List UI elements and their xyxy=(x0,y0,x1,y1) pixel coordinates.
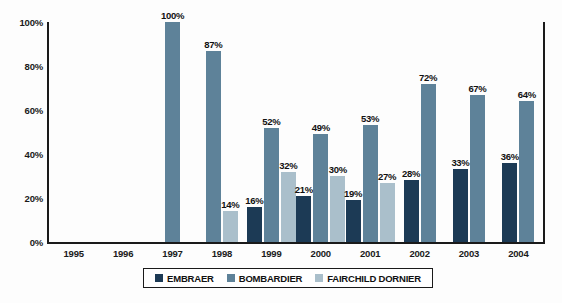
legend-label: BOMBARDIER xyxy=(239,273,302,284)
x-axis-labels: 1995199619971998199920002001200220032004 xyxy=(49,248,543,259)
bar-value-label: 49% xyxy=(312,122,330,133)
bar-value-label: 100% xyxy=(161,10,184,21)
bar-embraer-2003[interactable]: 33% xyxy=(453,169,468,242)
bar-slot: 67% xyxy=(470,22,485,242)
y-tick-label-60: 60% xyxy=(25,105,43,116)
bar-embraer-2002[interactable]: 28% xyxy=(404,180,419,242)
legend-label: FAIRCHILD DORNIER xyxy=(327,273,421,284)
bar-slot: 30% xyxy=(330,22,345,242)
bar-value-label: 27% xyxy=(378,171,396,182)
bar-bombardier-2000[interactable]: 49% xyxy=(313,134,328,242)
bar-slot: 100% xyxy=(165,22,180,242)
plot-area: 0% 20% 40% 60% 80% 100% 100%87%14%16%52%… xyxy=(47,22,545,244)
bar-groups: 100%87%14%16%52%32%21%49%30%19%53%27%28%… xyxy=(49,22,543,242)
bar-slot: 87% xyxy=(206,22,221,242)
bar-value-label: 19% xyxy=(344,188,362,199)
bar-embraer-2001[interactable]: 19% xyxy=(346,200,361,242)
x-tick-label-1996: 1996 xyxy=(98,248,147,259)
bar-value-label: 16% xyxy=(245,195,263,206)
y-tick-label-20: 20% xyxy=(25,193,43,204)
bar-slot: 72% xyxy=(421,22,436,242)
bar-bombardier-2002[interactable]: 72% xyxy=(421,84,436,242)
bar-value-label: 33% xyxy=(451,157,469,168)
right-border-line xyxy=(543,22,545,244)
x-axis-line xyxy=(47,242,545,244)
bar-value-label: 64% xyxy=(518,89,536,100)
bar-embraer-1999[interactable]: 16% xyxy=(247,207,262,242)
bar-fairchild-2001[interactable]: 27% xyxy=(380,183,395,242)
legend-label: EMBRAER xyxy=(167,273,214,284)
x-tick-label-2003: 2003 xyxy=(444,248,493,259)
bar-slot: 52% xyxy=(264,22,279,242)
x-tick-label-2000: 2000 xyxy=(296,248,345,259)
bar-chart: 0% 20% 40% 60% 80% 100% 100%87%14%16%52%… xyxy=(0,0,562,303)
bar-slot: 19% xyxy=(346,22,361,242)
bar-value-label: 36% xyxy=(501,151,519,162)
bar-slot: 53% xyxy=(363,22,378,242)
bar-group-2002: 28%72% xyxy=(395,22,444,242)
x-tick-label-1995: 1995 xyxy=(49,248,98,259)
bar-slot: 16% xyxy=(247,22,262,242)
bar-fairchild-1998[interactable]: 14% xyxy=(223,211,238,242)
y-tick-label-0: 0% xyxy=(30,237,43,248)
bar-embraer-2004[interactable]: 36% xyxy=(502,163,517,242)
bar-bombardier-2003[interactable]: 67% xyxy=(470,95,485,242)
legend-swatch-icon xyxy=(315,274,323,282)
legend-swatch-icon xyxy=(155,274,163,282)
bar-value-label: 30% xyxy=(329,164,347,175)
chart-legend: EMBRAERBOMBARDIERFAIRCHILD DORNIER xyxy=(143,268,433,288)
legend-swatch-icon xyxy=(227,274,235,282)
x-tick-label-2004: 2004 xyxy=(494,248,543,259)
bar-value-label: 14% xyxy=(221,199,239,210)
bar-value-label: 32% xyxy=(279,160,297,171)
bar-value-label: 67% xyxy=(468,83,486,94)
bar-group-1998: 87%14% xyxy=(197,22,246,242)
bar-value-label: 53% xyxy=(361,113,379,124)
x-tick-label-1999: 1999 xyxy=(247,248,296,259)
bar-group-1996 xyxy=(98,22,147,242)
bar-group-2001: 19%53%27% xyxy=(345,22,394,242)
bar-value-label: 28% xyxy=(402,168,420,179)
bar-group-1999: 16%52%32% xyxy=(247,22,296,242)
bar-slot: 27% xyxy=(380,22,395,242)
legend-item-embraer[interactable]: EMBRAER xyxy=(155,273,214,284)
bar-embraer-2000[interactable]: 21% xyxy=(296,196,311,242)
bar-fairchild-2000[interactable]: 30% xyxy=(330,176,345,242)
bar-fairchild-1999[interactable]: 32% xyxy=(281,172,296,242)
x-tick-label-2002: 2002 xyxy=(395,248,444,259)
bar-group-2000: 21%49%30% xyxy=(296,22,345,242)
bar-bombardier-2004[interactable]: 64% xyxy=(519,101,534,242)
y-tick-label-80: 80% xyxy=(25,61,43,72)
bar-slot: 49% xyxy=(313,22,328,242)
x-tick-label-1998: 1998 xyxy=(197,248,246,259)
x-tick-label-1997: 1997 xyxy=(148,248,197,259)
bar-group-2004: 36%64% xyxy=(494,22,543,242)
bar-value-label: 21% xyxy=(295,184,313,195)
bar-slot: 64% xyxy=(519,22,534,242)
bar-value-label: 52% xyxy=(262,116,280,127)
bar-bombardier-2001[interactable]: 53% xyxy=(363,125,378,242)
bar-group-1997: 100% xyxy=(148,22,197,242)
bar-slot: 32% xyxy=(281,22,296,242)
bar-slot: 21% xyxy=(296,22,311,242)
bar-bombardier-1998[interactable]: 87% xyxy=(206,51,221,242)
y-tick-label-40: 40% xyxy=(25,149,43,160)
bar-slot: 28% xyxy=(404,22,419,242)
bar-slot: 33% xyxy=(453,22,468,242)
bar-group-2003: 33%67% xyxy=(444,22,493,242)
x-tick-label-2001: 2001 xyxy=(345,248,394,259)
bar-slot: 14% xyxy=(223,22,238,242)
bar-value-label: 72% xyxy=(419,72,437,83)
bar-group-1995 xyxy=(49,22,98,242)
bar-bombardier-1997[interactable]: 100% xyxy=(165,22,180,242)
legend-item-fairchild-dornier[interactable]: FAIRCHILD DORNIER xyxy=(315,273,421,284)
bar-value-label: 87% xyxy=(204,39,222,50)
bar-slot: 36% xyxy=(502,22,517,242)
bar-bombardier-1999[interactable]: 52% xyxy=(264,128,279,242)
legend-item-bombardier[interactable]: BOMBARDIER xyxy=(227,273,302,284)
y-tick-label-100: 100% xyxy=(20,17,44,28)
